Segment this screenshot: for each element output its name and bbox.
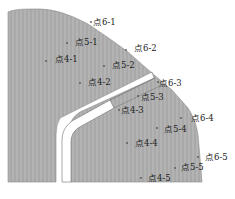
- point-label-5-1: 点5-1: [75, 37, 98, 47]
- point-label-4-5: 点4-5: [148, 173, 171, 183]
- point-marker-6-2: [125, 49, 127, 51]
- point-label-6-4: 点6-4: [191, 113, 214, 123]
- point-label-4-4: 点4-4: [135, 138, 158, 148]
- point-label-6-2: 点6-2: [134, 43, 157, 53]
- point-label-5-2: 点5-2: [112, 60, 135, 70]
- point-marker-4-4: [126, 142, 128, 144]
- point-marker-6-5: [197, 156, 199, 158]
- point-label-5-4: 点5-4: [164, 124, 187, 134]
- point-marker-6-4: [180, 117, 182, 119]
- cross-section-diagram: 点6-1 点5-1 点4-1 点6-2 点5-2 点4-2 点6-3 点5-3 …: [0, 0, 235, 199]
- point-marker-4-3: [118, 109, 120, 111]
- point-label-6-1: 点6-1: [93, 17, 116, 27]
- point-marker-4-1: [45, 60, 47, 62]
- point-label-5-3: 点5-3: [141, 92, 164, 102]
- point-marker-6-1: [90, 21, 92, 23]
- point-marker-4-2: [79, 82, 81, 84]
- point-marker-4-5: [140, 177, 142, 179]
- point-marker-5-5: [174, 167, 176, 169]
- point-label-6-5: 点6-5: [205, 152, 228, 162]
- point-label-5-5: 点5-5: [181, 162, 204, 172]
- point-marker-5-3: [137, 95, 139, 97]
- point-label-4-2: 点4-2: [88, 77, 111, 87]
- point-label-4-3: 点4-3: [121, 105, 144, 115]
- point-marker-5-4: [156, 127, 158, 129]
- section-body: [8, 9, 202, 182]
- point-label-4-1: 点4-1: [55, 54, 78, 64]
- point-marker-5-1: [66, 42, 68, 44]
- point-label-6-3: 点6-3: [159, 78, 182, 88]
- point-marker-5-2: [103, 65, 105, 67]
